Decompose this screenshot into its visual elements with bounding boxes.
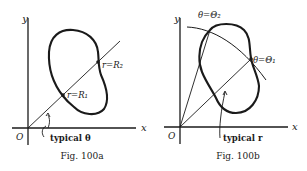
figure-100b: y x O θ=Θ₂ θ=Θ₁ typical r Fig. 100b (164, 10, 298, 161)
closed-curve (49, 30, 107, 114)
x-axis-label: x (141, 122, 147, 133)
angle-arc (48, 115, 50, 128)
point-r1 (61, 93, 65, 97)
diagram-canvas: y x O r=R₁ r=R₂ typical θ Fig. 100a y x … (0, 0, 307, 171)
origin-label: O (16, 132, 24, 142)
caption-100b: Fig. 100b (216, 151, 260, 161)
y-axis-label: y (173, 13, 180, 24)
label-r1: r=R₁ (67, 90, 88, 100)
x-axis-label: x (292, 121, 298, 132)
ray-theta (28, 41, 120, 128)
label-theta-1: θ=Θ₁ (253, 55, 276, 65)
radius-pointer (220, 92, 225, 138)
label-r2: r=R₂ (102, 60, 124, 70)
typical-theta-label: typical θ (50, 133, 91, 143)
y-axis-label: y (21, 13, 28, 24)
point-r2 (96, 60, 100, 64)
caption-100a: Fig. 100a (60, 151, 104, 161)
typical-r-label: typical r (223, 133, 263, 143)
figure-100a: y x O r=R₁ r=R₂ typical θ Fig. 100a (12, 13, 147, 161)
label-theta-2: θ=Θ₂ (198, 10, 221, 20)
origin-label: O (168, 131, 176, 141)
